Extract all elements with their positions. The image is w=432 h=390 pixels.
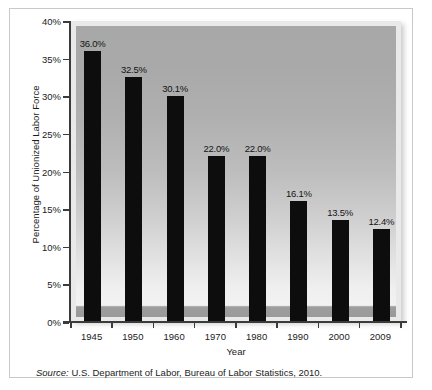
y-tick-30% — [63, 96, 69, 98]
bar-2009[interactable]: 12.4% — [373, 21, 390, 322]
y-tick-15% — [63, 209, 69, 211]
y-tick-0% — [63, 322, 69, 324]
x-tick-6 — [318, 322, 320, 328]
bars-layer: 36.0%32.5%30.1%22.0%22.0%16.1%13.5%12.4% — [71, 21, 401, 322]
y-tick-label-40%: 40% — [15, 16, 61, 27]
bar-1950[interactable]: 32.5% — [125, 21, 142, 322]
x-tick-0 — [70, 322, 72, 328]
bar-rect-1980[interactable] — [249, 156, 266, 322]
x-tick-4 — [235, 322, 237, 328]
x-tick-label-1980: 1980 — [246, 331, 267, 342]
bar-rect-1990[interactable] — [290, 201, 307, 322]
bar-value-label-1950: 32.5% — [121, 64, 147, 75]
source-text: U.S. Department of Labor, Bureau of Labo… — [69, 367, 322, 378]
bar-1960[interactable]: 30.1% — [167, 21, 184, 322]
bar-rect-1945[interactable] — [84, 51, 101, 322]
y-axis-line — [69, 21, 71, 322]
x-tick-label-1970: 1970 — [205, 331, 226, 342]
bar-1970[interactable]: 22.0% — [208, 21, 225, 322]
y-axis-title: Percentage of Unionized Labor Force — [30, 55, 41, 275]
y-tick-label-0%: 0% — [15, 317, 61, 328]
x-tick-8 — [400, 322, 402, 328]
bar-2000[interactable]: 13.5% — [332, 21, 349, 322]
x-tick-2 — [153, 322, 155, 328]
x-tick-label-1960: 1960 — [164, 331, 185, 342]
x-tick-label-2000: 2000 — [329, 331, 350, 342]
bar-rect-2009[interactable] — [373, 229, 390, 322]
bar-1990[interactable]: 16.1% — [290, 21, 307, 322]
bar-value-label-2009: 12.4% — [368, 216, 394, 227]
bar-rect-2000[interactable] — [332, 220, 349, 322]
x-tick-5 — [276, 322, 278, 328]
bar-rect-1970[interactable] — [208, 156, 225, 322]
x-axis-title: Year — [71, 346, 401, 357]
bar-rect-1950[interactable] — [125, 77, 142, 322]
bar-1980[interactable]: 22.0% — [249, 21, 266, 322]
x-tick-3 — [194, 322, 196, 328]
y-tick-5% — [63, 284, 69, 286]
x-tick-1 — [111, 322, 113, 328]
bar-value-label-1945: 36.0% — [80, 38, 106, 49]
bar-value-label-2000: 13.5% — [327, 207, 353, 218]
y-tick-25% — [63, 134, 69, 136]
bar-rect-1960[interactable] — [167, 96, 184, 323]
chart-canvas: 36.0%32.5%30.1%22.0%22.0%16.1%13.5%12.4%… — [10, 9, 412, 377]
source-note: Source: U.S. Department of Labor, Bureau… — [36, 367, 322, 378]
bar-value-label-1980: 22.0% — [245, 143, 271, 154]
y-tick-label-5%: 5% — [15, 279, 61, 290]
x-tick-7 — [359, 322, 361, 328]
bar-value-label-1960: 30.1% — [162, 83, 188, 94]
y-tick-40% — [63, 21, 69, 23]
bar-value-label-1970: 22.0% — [203, 143, 229, 154]
x-tick-label-1945: 1945 — [81, 331, 102, 342]
x-tick-label-1950: 1950 — [122, 331, 143, 342]
x-tick-label-2009: 2009 — [370, 331, 391, 342]
y-tick-10% — [63, 247, 69, 249]
x-tick-label-1990: 1990 — [287, 331, 308, 342]
bar-1945[interactable]: 36.0% — [84, 21, 101, 322]
bar-value-label-1990: 16.1% — [286, 188, 312, 199]
source-label: Source: — [36, 367, 69, 378]
chart-figure: 36.0%32.5%30.1%22.0%22.0%16.1%13.5%12.4%… — [9, 8, 413, 378]
y-tick-20% — [63, 172, 69, 174]
y-tick-35% — [63, 59, 69, 61]
